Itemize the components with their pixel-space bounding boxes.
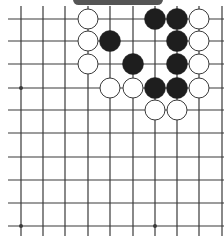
- white-stone: [78, 31, 98, 51]
- star-point: [19, 86, 23, 90]
- star-point: [19, 224, 23, 228]
- black-stone: [145, 78, 166, 99]
- black-stone: [167, 54, 188, 75]
- black-stone: [167, 9, 188, 30]
- white-stone: [100, 78, 120, 98]
- black-stone: [167, 31, 188, 52]
- black-stone: [145, 9, 166, 30]
- white-stone: [78, 9, 98, 29]
- white-stone: [167, 100, 187, 120]
- star-point: [153, 224, 157, 228]
- stones: [78, 9, 209, 121]
- white-stone: [78, 54, 98, 74]
- white-stone: [145, 100, 165, 120]
- white-stone: [189, 9, 209, 29]
- white-stone: [123, 78, 143, 98]
- black-stone: [123, 54, 144, 75]
- white-stone: [189, 78, 209, 98]
- white-stone: [189, 31, 209, 51]
- white-stone: [189, 54, 209, 74]
- black-stone: [100, 31, 121, 52]
- black-stone: [167, 78, 188, 99]
- go-board[interactable]: [0, 0, 224, 244]
